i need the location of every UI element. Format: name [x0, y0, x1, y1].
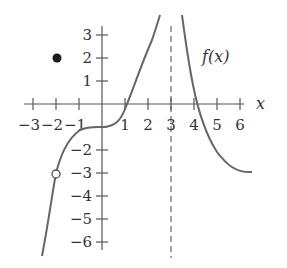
x-tick-label: −3 [18, 116, 40, 134]
y-tick-label: 2 [82, 49, 92, 67]
y-tick-label: −6 [70, 233, 92, 251]
open-point [52, 170, 60, 178]
x-axis-label: x [256, 94, 265, 113]
x-tick-label: 1 [120, 116, 130, 134]
x-tick-label: 5 [212, 116, 222, 134]
curve-left-branch [42, 15, 160, 256]
y-tick-label: −3 [70, 164, 92, 182]
y-tick-label: −4 [70, 187, 92, 205]
y-tick-label: −5 [70, 210, 92, 228]
y-tick-label: 1 [82, 72, 92, 90]
y-tick-label: 3 [82, 26, 92, 44]
function-graph: x −3 −2 −1 1 2 3 4 5 6 3 [0, 0, 287, 268]
curve-right-branch [182, 15, 252, 172]
x-tick-label: −2 [41, 116, 63, 134]
filled-point [53, 54, 62, 63]
x-tick-label: 6 [235, 116, 245, 134]
function-label: f(x) [201, 47, 229, 66]
x-tick-labels: −3 −2 −1 1 2 3 4 5 6 [18, 116, 245, 134]
y-tick-label: −2 [70, 141, 92, 159]
x-tick-label: −1 [64, 116, 86, 134]
x-tick-label: 3 [166, 116, 176, 134]
x-tick-label: 2 [143, 116, 153, 134]
x-tick-label: 4 [189, 116, 199, 134]
y-tick-labels: 3 2 1 −2 −3 −4 −5 −6 [70, 26, 92, 251]
